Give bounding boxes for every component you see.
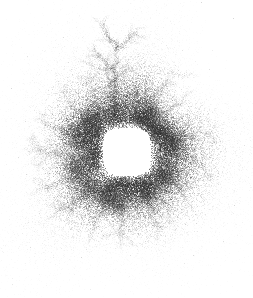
scatter-figure: Grayscale particle scatter forming a fil… xyxy=(0,0,253,298)
particle-scatter-plot xyxy=(0,0,253,298)
